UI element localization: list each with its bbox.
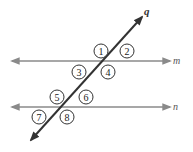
parallel-lines-diagram: m n q 1 2 3 4 5 6 7 8: [0, 0, 193, 152]
line-n-label: n: [173, 101, 178, 112]
transversal-q: [31, 17, 142, 140]
angle-2-label: 2: [125, 46, 130, 57]
angle-7: 7: [32, 110, 46, 124]
angle-1: 1: [94, 44, 108, 58]
line-q-label: q: [144, 5, 150, 17]
angle-3-label: 3: [77, 67, 82, 78]
angle-1-label: 1: [99, 46, 104, 57]
line-m-label: m: [173, 55, 180, 66]
angle-2: 2: [120, 44, 134, 58]
angle-3: 3: [72, 65, 86, 79]
angle-5: 5: [50, 90, 64, 104]
angle-7-label: 7: [37, 112, 42, 123]
angle-5-label: 5: [55, 92, 60, 103]
angle-6: 6: [79, 90, 93, 104]
angle-4: 4: [101, 65, 115, 79]
angle-6-label: 6: [84, 92, 89, 103]
angle-8: 8: [60, 110, 74, 124]
angle-4-label: 4: [106, 67, 111, 78]
angle-8-label: 8: [65, 112, 70, 123]
